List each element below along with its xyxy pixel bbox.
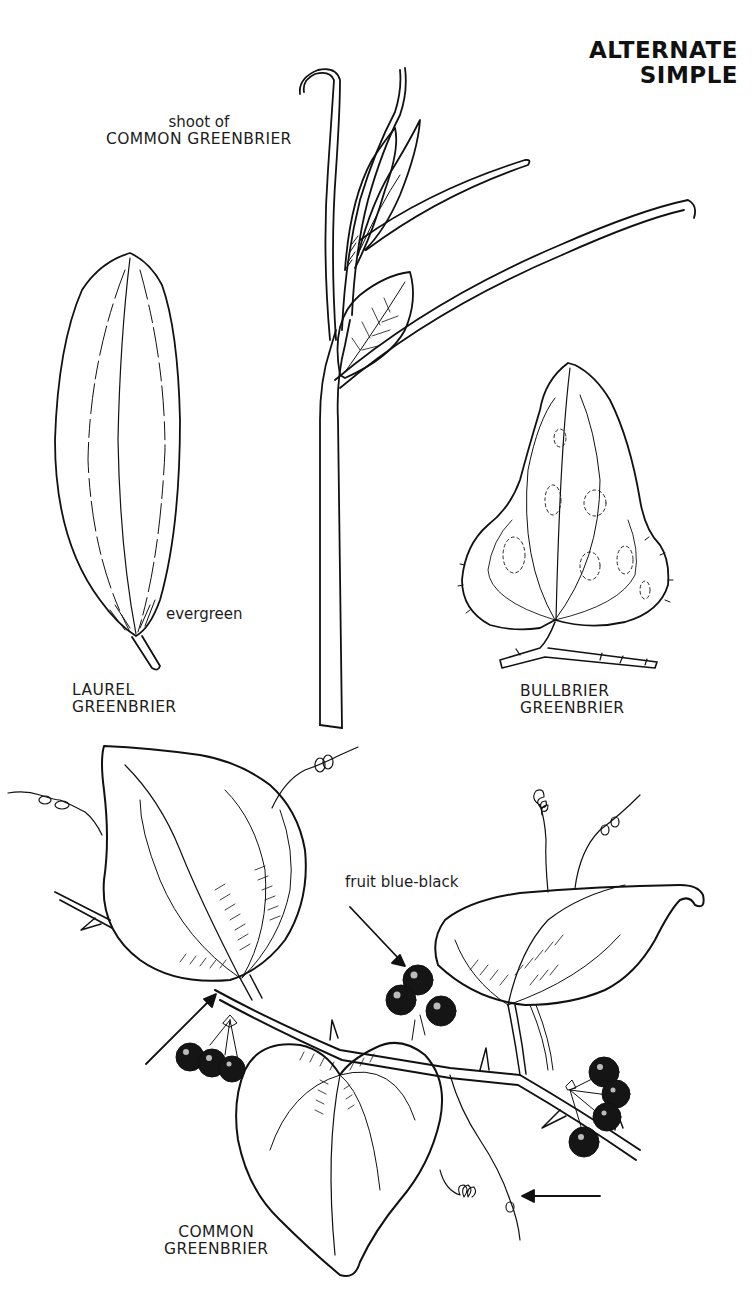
laurel-caption-line-2: GREENBRIER xyxy=(72,699,177,716)
laurel-caption-line-1: LAUREL xyxy=(72,682,177,699)
plate-title: ALTERNATE SIMPLE xyxy=(589,38,738,88)
laurel-evergreen-note: evergreen xyxy=(166,606,243,623)
laurel-leaf-drawing xyxy=(55,253,180,670)
botanical-plate: ALTERNATE SIMPLE shoot of COMMON GREENBR… xyxy=(0,0,754,1303)
greenbrier-illustration xyxy=(0,0,754,1303)
berry-cluster-center xyxy=(412,1015,425,1040)
plate-title-line-1: ALTERNATE xyxy=(589,38,738,63)
bullbrier-leaf-drawing xyxy=(458,363,673,668)
shoot-caption-line-2: COMMON GREENBRIER xyxy=(106,131,292,148)
laurel-caption: LAUREL GREENBRIER xyxy=(72,682,177,717)
bullbrier-caption-line-2: GREENBRIER xyxy=(520,700,625,717)
fruit-color-note: fruit blue-black xyxy=(345,874,458,891)
shoot-drawing xyxy=(300,68,695,728)
shoot-caption-line-1: shoot of xyxy=(106,114,292,131)
bullbrier-caption-line-1: BULLBRIER xyxy=(520,683,625,700)
common-caption-line-2: GREENBRIER xyxy=(164,1241,269,1258)
bullbrier-caption: BULLBRIER GREENBRIER xyxy=(520,683,625,718)
shoot-caption: shoot of COMMON GREENBRIER xyxy=(106,114,292,148)
common-caption-line-1: COMMON xyxy=(164,1224,269,1241)
plate-title-line-2: SIMPLE xyxy=(589,63,738,88)
common-caption: COMMON GREENBRIER xyxy=(164,1224,269,1259)
